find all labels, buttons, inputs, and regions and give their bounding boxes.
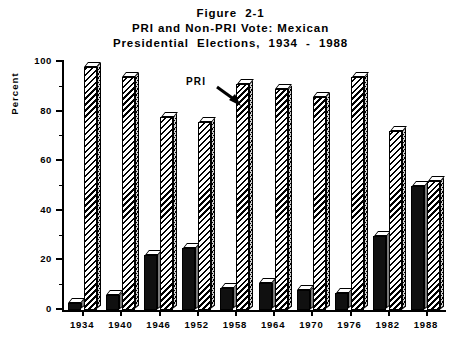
bar-nonpri-1970 <box>297 290 310 310</box>
bar-side-face <box>440 177 444 309</box>
pri-arrow-icon <box>215 84 245 108</box>
plot-area: 0204060801001934194019461952195819641970… <box>62 62 446 312</box>
bar-top-face <box>161 112 178 117</box>
y-axis-tick-label: 60 <box>40 154 52 165</box>
bar-front-face <box>313 97 326 310</box>
bar-nonpri-1964 <box>259 283 272 310</box>
x-axis-tick <box>159 310 161 316</box>
x-axis-tick-label-1934: 1934 <box>70 319 94 330</box>
x-axis-tick <box>350 310 352 316</box>
x-axis-tick <box>311 310 313 316</box>
bar-front-face <box>220 288 233 310</box>
bar-pri-1940 <box>122 77 135 310</box>
y-axis-tick-label: 0 <box>46 303 52 314</box>
bar-side-face <box>402 127 406 309</box>
x-axis-tick <box>82 310 84 316</box>
bar-side-face <box>211 117 215 309</box>
bar-side-face <box>249 80 253 309</box>
bar-front-face <box>389 131 402 310</box>
y-axis-minor-tick <box>59 185 64 186</box>
y-axis-minor-tick <box>59 284 64 285</box>
bar-pri-1976 <box>351 77 364 310</box>
bar-pri-1988 <box>427 181 440 310</box>
x-axis-tick-label-1958: 1958 <box>223 319 247 330</box>
bar-side-face <box>326 93 330 309</box>
y-axis-tick: 20 <box>56 258 64 260</box>
bar-front-face <box>335 293 348 310</box>
bar-front-face <box>182 248 195 310</box>
y-axis-tick: 40 <box>56 209 64 211</box>
y-axis-tick: 60 <box>56 159 64 161</box>
title-line-3: Presidential Elections, 1934 - 1988 <box>0 36 461 51</box>
title-line-1: Figure 2-1 <box>0 6 461 21</box>
y-axis-minor-tick <box>59 235 64 236</box>
x-axis-tick-label-1946: 1946 <box>146 319 170 330</box>
bar-pri-1952 <box>198 122 211 310</box>
bar-nonpri-1988 <box>411 186 424 310</box>
bar-front-face <box>84 67 97 310</box>
bar-nonpri-1958 <box>220 288 233 310</box>
x-axis-tick <box>388 310 390 316</box>
bar-nonpri-1946 <box>144 255 157 310</box>
x-axis-tick <box>426 310 428 316</box>
x-axis-tick-label-1940: 1940 <box>108 319 132 330</box>
bar-pri-1946 <box>160 117 173 310</box>
bar-front-face <box>236 84 249 310</box>
bar-side-face <box>288 85 292 309</box>
y-axis-tick-label: 100 <box>34 55 52 66</box>
x-axis-tick-label-1964: 1964 <box>261 319 285 330</box>
bar-nonpri-1952 <box>182 248 195 310</box>
bar-front-face <box>351 77 364 310</box>
x-axis-tick <box>120 310 122 316</box>
bar-pri-1958 <box>236 84 249 310</box>
title-line-2: PRI and Non-PRI Vote: Mexican <box>0 21 461 36</box>
bar-side-face <box>173 112 177 309</box>
x-axis-tick-label-1970: 1970 <box>299 319 323 330</box>
bar-front-face <box>198 122 211 310</box>
x-axis-tick-label-1988: 1988 <box>414 319 438 330</box>
bar-nonpri-1934 <box>68 303 81 310</box>
chart-title: Figure 2-1 PRI and Non-PRI Vote: Mexican… <box>0 6 461 51</box>
bar-front-face <box>144 255 157 310</box>
y-axis-title: Percent <box>9 34 20 154</box>
y-axis-tick-label: 40 <box>40 204 52 215</box>
x-axis-tick <box>197 310 199 316</box>
bar-nonpri-1982 <box>373 236 386 310</box>
y-axis-tick-label: 20 <box>40 253 52 264</box>
bar-front-face <box>275 89 288 310</box>
y-axis-minor-tick <box>59 86 64 87</box>
bar-side-face <box>364 73 368 309</box>
bar-pri-1964 <box>275 89 288 310</box>
y-axis-minor-tick <box>59 135 64 136</box>
bar-pri-1982 <box>389 131 402 310</box>
bar-nonpri-1976 <box>335 293 348 310</box>
bar-side-face <box>97 63 101 309</box>
pri-annotation-label: PRI <box>186 76 206 87</box>
bar-front-face <box>160 117 173 310</box>
y-axis-tick: 100 <box>56 60 64 62</box>
bar-front-face <box>106 295 119 310</box>
x-axis-tick-label-1952: 1952 <box>185 319 209 330</box>
bar-front-face <box>122 77 135 310</box>
x-axis-tick-label-1982: 1982 <box>376 319 400 330</box>
bar-top-face <box>336 288 353 293</box>
bar-front-face <box>373 236 386 310</box>
bar-front-face <box>427 181 440 310</box>
bar-front-face <box>68 303 81 310</box>
x-axis-tick <box>235 310 237 316</box>
bar-pri-1970 <box>313 97 326 310</box>
bar-pri-1934 <box>84 67 97 310</box>
y-axis-tick-label: 80 <box>40 105 52 116</box>
bar-front-face <box>259 283 272 310</box>
bar-front-face <box>411 186 424 310</box>
figure-chart: Figure 2-1 PRI and Non-PRI Vote: Mexican… <box>0 0 461 347</box>
y-axis-tick: 0 <box>56 308 64 310</box>
y-axis-tick: 80 <box>56 110 64 112</box>
x-axis-tick <box>273 310 275 316</box>
x-axis-tick-label-1976: 1976 <box>337 319 361 330</box>
bar-front-face <box>297 290 310 310</box>
bar-nonpri-1940 <box>106 295 119 310</box>
bar-side-face <box>135 73 139 309</box>
